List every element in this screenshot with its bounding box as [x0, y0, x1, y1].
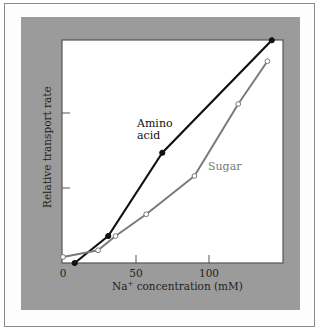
- data-point: [269, 38, 274, 43]
- chart: 050100 Amino acid Sugar Relative transpo…: [0, 0, 320, 333]
- x-axis-label-base: Na: [112, 280, 127, 292]
- data-point: [160, 150, 165, 155]
- plot-area: [62, 40, 283, 263]
- data-point: [192, 174, 197, 179]
- x-tick-label: 50: [129, 267, 142, 279]
- x-tick-label: 100: [199, 267, 219, 279]
- data-point: [236, 102, 241, 107]
- data-point: [144, 212, 149, 217]
- x-axis-label: Na+ concentration (mM): [112, 280, 243, 292]
- series-label-amino-acid-line2: acid: [137, 129, 160, 142]
- data-point: [106, 233, 111, 238]
- y-axis-label: Relative transport rate: [41, 86, 53, 208]
- data-point: [72, 260, 77, 265]
- data-point: [113, 234, 118, 239]
- x-axis-label-rest: concentration (mM): [133, 280, 243, 292]
- x-tick-label: 0: [60, 267, 67, 279]
- data-point: [265, 59, 270, 64]
- data-point: [61, 255, 66, 260]
- series-label-sugar: Sugar: [208, 160, 242, 173]
- data-point: [96, 248, 101, 253]
